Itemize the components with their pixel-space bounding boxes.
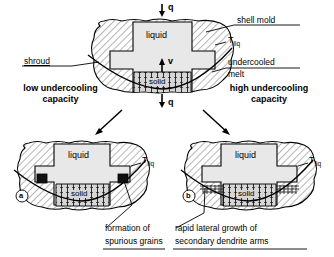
panel-a-tliq-label: Tliq (142, 156, 154, 167)
tliq-label-top: Tliq (228, 36, 240, 47)
panel-a-caption-line2: spurious grains (105, 237, 163, 246)
low-undercooling-line2: capacity (8, 95, 113, 104)
panel-b-tliq-label: Tliq (309, 156, 321, 167)
high-undercooling-line2: capacity (214, 95, 324, 104)
growth-velocity-label: v (168, 57, 173, 66)
undercooled-label-line1: undercooled (228, 58, 275, 67)
panel-b-liquid-label: liquid (235, 151, 256, 160)
heat-flux-label-top: q (168, 3, 174, 12)
low-undercooling-line1: low undercooling (8, 84, 113, 93)
panel-a-caption-line1: formation of (105, 224, 150, 233)
panel-a-tag: a (19, 192, 23, 200)
panel-b-tag: b (186, 192, 191, 200)
spurious-grain-left (37, 174, 47, 183)
shroud-label: shroud (24, 57, 50, 66)
branch-arrow-left (95, 110, 122, 135)
spurious-grain-right (118, 174, 128, 183)
panel-a-liquid-label: liquid (68, 151, 89, 160)
heat-flux-arrow-top (159, 4, 165, 17)
panel-b-caption-line2: secondary dendrite arms (175, 237, 269, 246)
shell-mold-label: shell mold (237, 16, 275, 25)
undercooled-label-line2: melt (228, 70, 244, 79)
high-undercooling-line1: high undercooling (214, 84, 324, 93)
panel-b-solid-label: solid (237, 190, 255, 198)
branch-arrow-right (203, 110, 230, 135)
solid-label-top: solid (148, 78, 166, 86)
panel-a-solid-label: solid (70, 190, 88, 198)
heat-flux-label-bottom: q (168, 98, 174, 107)
figure-canvas: q liquid v solid q shell mold Tliq under… (0, 0, 334, 257)
panel-b-caption-line1: rapid lateral growth of (175, 224, 257, 233)
liquid-label-top: liquid (146, 31, 167, 40)
heat-flux-arrow-bottom (159, 94, 165, 108)
